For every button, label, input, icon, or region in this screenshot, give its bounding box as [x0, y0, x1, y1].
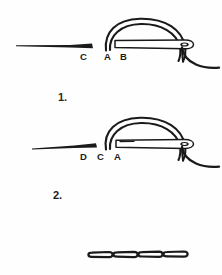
point-label-c-fig2: C: [97, 152, 104, 162]
thread-tail-fig2: [182, 147, 219, 167]
fabric-line-left-fig2: [32, 143, 97, 149]
chain-link-1: [88, 252, 112, 257]
needle-eye-hole-fig1: [182, 44, 187, 46]
figure-1-group: [16, 19, 219, 68]
diagram-page: .ink { fill: none; stroke: #1a1a1a; stro…: [0, 0, 222, 275]
point-label-a-fig1: A: [104, 52, 111, 62]
thread-loop-join-fig2: [182, 148, 183, 161]
point-label-b-fig1: B: [120, 52, 127, 62]
step-label-1: 1.: [58, 92, 67, 103]
thread-loop-join-fig1: [182, 49, 183, 62]
figure-3-group: [88, 252, 187, 258]
figure-2-group: [32, 118, 219, 167]
needle-eye-hole-fig2: [182, 143, 187, 145]
thread-tail-fig1: [182, 48, 219, 68]
chain-link-3: [138, 252, 162, 257]
fabric-line-left-fig1: [16, 44, 93, 49]
chain-stitch-illustration: .ink { fill: none; stroke: #1a1a1a; stro…: [0, 0, 222, 275]
step-label-2: 2.: [53, 190, 62, 201]
chain-link-2: [113, 252, 137, 257]
point-label-a-fig2: A: [114, 152, 121, 162]
chain-link-4: [163, 252, 187, 257]
point-label-c-fig1: C: [80, 52, 87, 62]
point-label-d-fig2: D: [80, 152, 87, 162]
